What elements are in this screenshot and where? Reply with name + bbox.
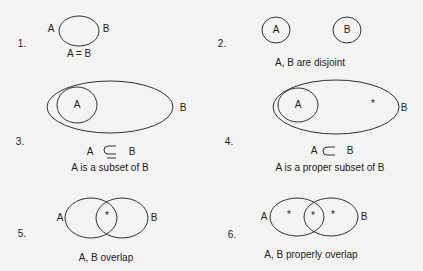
panel-number: 4.: [225, 137, 233, 147]
caption: A, B properly overlap: [264, 250, 357, 260]
set-b-label: B: [103, 24, 110, 34]
relation-label: A = B: [67, 49, 91, 59]
set-a-equals-b-ellipse: [59, 16, 99, 46]
proper-subset-symbol: [323, 147, 335, 155]
set-b-label: B: [180, 103, 187, 113]
panel-number: 1.: [18, 39, 26, 49]
set-a-label: A: [261, 212, 268, 222]
set-b-ellipse: [96, 198, 148, 238]
venn-diagrams: [0, 0, 423, 271]
caption: A is a proper subset of B: [276, 163, 385, 173]
set-b-label: B: [344, 25, 351, 35]
element-marker-both: *: [311, 211, 315, 221]
caption: A is a subset of B: [71, 163, 148, 173]
set-a-label: A: [74, 100, 81, 110]
relation-set-b: B: [347, 146, 354, 156]
element-marker: *: [105, 211, 109, 221]
set-b-label: B: [361, 212, 368, 222]
panel-number: 5.: [18, 229, 26, 239]
set-a-label: A: [273, 25, 280, 35]
element-marker: *: [371, 99, 375, 109]
set-b-label: B: [401, 103, 408, 113]
relation-set-a: A: [311, 146, 318, 156]
set-b-ellipse: [47, 81, 173, 133]
caption: A, B overlap: [79, 253, 133, 263]
relation-set-a: A: [87, 147, 94, 157]
element-marker-b-only: *: [331, 210, 335, 220]
subset-or-equal-symbol: [104, 146, 116, 158]
set-b-ellipse: [273, 80, 399, 134]
set-a-label: A: [48, 24, 55, 34]
caption: A, B are disjoint: [275, 58, 345, 68]
set-a-ellipse: [65, 198, 117, 238]
relation-set-b: B: [129, 147, 136, 157]
element-marker-a-only: *: [287, 210, 291, 220]
set-a-label: A: [295, 100, 302, 110]
panel-number: 3.: [16, 137, 24, 147]
set-a-ellipse: [270, 198, 324, 236]
panel-number: 6.: [228, 230, 236, 240]
set-b-label: B: [151, 213, 158, 223]
set-a-label: A: [57, 213, 64, 223]
panel-number: 2.: [218, 39, 226, 49]
